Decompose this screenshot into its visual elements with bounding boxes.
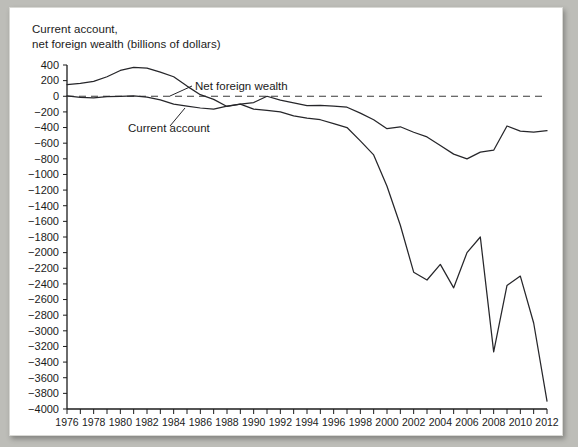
series-line-net-foreign-wealth xyxy=(67,67,547,401)
x-axis-tick-label: 1992 xyxy=(269,416,293,428)
x-axis-tick-label: 1984 xyxy=(162,416,186,428)
y-axis-tick-label: −4000 xyxy=(28,403,59,415)
y-axis-tick-label: −1800 xyxy=(28,231,59,243)
y-axis-tick-label: −1600 xyxy=(28,215,59,227)
x-axis-tick-label: 2010 xyxy=(509,416,533,428)
y-axis-tick-label: −400 xyxy=(34,121,59,133)
y-axis-labels: 4002000−200−400−600−800−1000−1200−1400−1… xyxy=(28,59,59,415)
x-axis-tick-label: 1994 xyxy=(295,416,319,428)
x-axis-tick-label: 1978 xyxy=(82,416,106,428)
annotation-label-net-foreign-wealth: Net foreign wealth xyxy=(195,80,288,92)
x-axis-ticks xyxy=(67,409,547,414)
x-axis-tick-label: 1988 xyxy=(215,416,239,428)
x-axis-tick-label: 1980 xyxy=(109,416,133,428)
y-axis-tick-label: −3600 xyxy=(28,372,59,384)
y-axis-tick-label: −3800 xyxy=(28,387,59,399)
x-axis-tick-label: 1986 xyxy=(189,416,213,428)
x-axis-tick-label: 2000 xyxy=(375,416,399,428)
y-axis-tick-label: −1000 xyxy=(28,168,59,180)
x-axis-tick-label: 2012 xyxy=(535,416,559,428)
annotation-leader-net-foreign-wealth xyxy=(170,86,192,96)
y-axis-tick-label: −600 xyxy=(34,137,59,149)
y-axis-tick-label: −2800 xyxy=(28,309,59,321)
x-axis-tick-label: 1976 xyxy=(55,416,79,428)
annotation-label-current-account: Current account xyxy=(128,122,211,134)
y-axis-tick-label: −3200 xyxy=(28,340,59,352)
y-axis-tick-label: −1200 xyxy=(28,184,59,196)
y-axis-tick-label: −800 xyxy=(34,153,59,165)
x-axis-tick-label: 1982 xyxy=(135,416,159,428)
x-axis-tick-label: 1998 xyxy=(349,416,373,428)
x-axis-tick-label: 2004 xyxy=(429,416,453,428)
x-axis-tick-label: 1996 xyxy=(322,416,346,428)
screenshot-page: Current account, net foreign wealth (bil… xyxy=(0,0,578,447)
y-axis-tick-label: −3400 xyxy=(28,356,59,368)
y-axis-tick-label: −3000 xyxy=(28,325,59,337)
y-axis-tick-label: −1400 xyxy=(28,200,59,212)
x-axis-tick-label: 2006 xyxy=(455,416,479,428)
x-axis-labels: 1976197819801982198419861988199019921994… xyxy=(55,416,559,428)
y-axis-tick-label: −2200 xyxy=(28,262,59,274)
y-axis-tick-label: 200 xyxy=(41,74,59,86)
y-axis-tick-label: 400 xyxy=(41,59,59,71)
y-axis-tick-label: −200 xyxy=(34,106,59,118)
y-axis-tick-label: −2400 xyxy=(28,278,59,290)
y-axis-tick-label: −2000 xyxy=(28,246,59,258)
y-axis-tick-label: 0 xyxy=(53,90,59,102)
x-axis-tick-label: 1990 xyxy=(242,416,266,428)
y-axis-tick-label: −2600 xyxy=(28,293,59,305)
chart-paper: Current account, net foreign wealth (bil… xyxy=(9,7,563,436)
x-axis-tick-label: 2002 xyxy=(402,416,426,428)
x-axis-tick-label: 2008 xyxy=(482,416,506,428)
chart-plot-area: 4002000−200−400−600−800−1000−1200−1400−1… xyxy=(10,8,562,435)
